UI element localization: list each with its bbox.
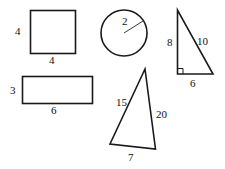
right-triangle-bottom-leg-label: 6: [190, 78, 196, 89]
square-bottom-label: 4: [49, 55, 55, 66]
rectangle-left-label: 3: [10, 85, 16, 96]
square-left-label: 4: [15, 26, 21, 37]
circle-radius-label: 2: [122, 16, 128, 27]
scalene-left-side-label: 15: [116, 97, 127, 108]
scalene-bottom-label: 7: [128, 152, 134, 163]
scalene-right-side-label: 20: [156, 109, 167, 120]
right-triangle-hypotenuse-label: 10: [197, 36, 208, 47]
rectangle-bottom-label: 6: [51, 105, 57, 116]
right-triangle-left-leg-label: 8: [167, 37, 173, 48]
